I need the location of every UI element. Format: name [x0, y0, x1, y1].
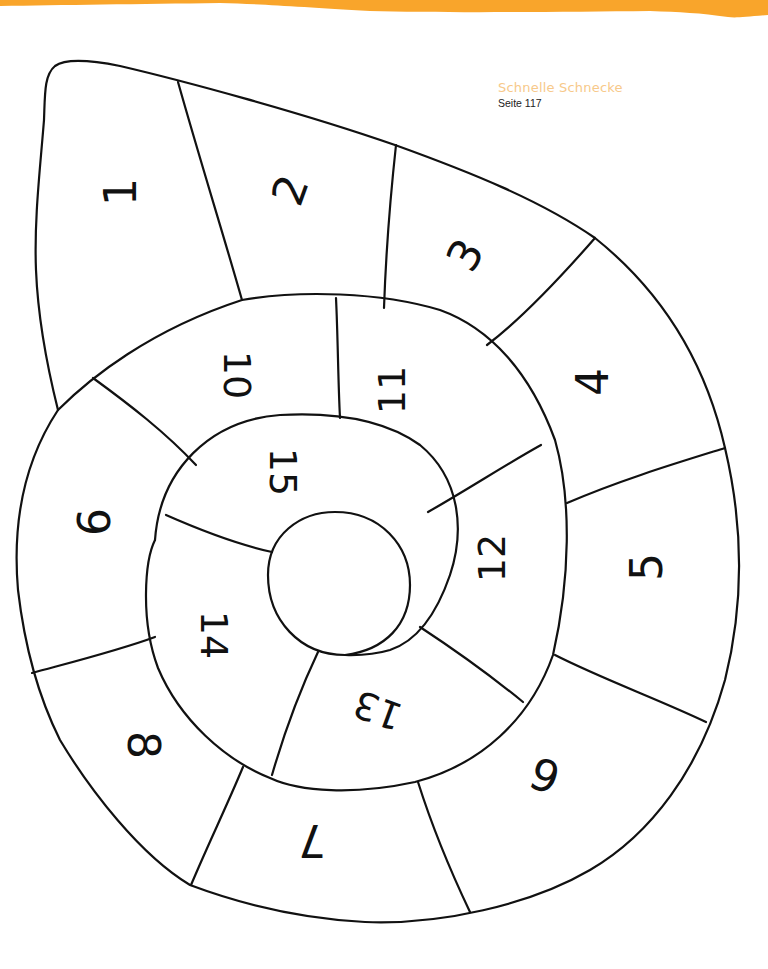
divider-12-13	[420, 627, 523, 702]
divider-5-6	[555, 655, 706, 722]
shell-center	[268, 512, 410, 655]
divider-14-15	[166, 515, 272, 552]
divider-8-9	[32, 637, 155, 673]
segment-3-number: 3	[436, 230, 494, 280]
segment-4-number: 4	[567, 368, 618, 396]
divider-1-2	[178, 82, 242, 300]
segment-7-number: 7	[298, 815, 326, 866]
segment-11-number: 11	[370, 366, 414, 414]
divider-9-10	[93, 378, 196, 465]
divider-11-12	[428, 445, 541, 512]
segment-9-number: 9	[67, 508, 118, 536]
worksheet-page: Schnelle Schnecke Seite 117 1 2 3	[0, 0, 768, 969]
segment-5-number: 5	[621, 553, 672, 581]
divider-2-3	[384, 145, 396, 308]
segment-13-number: 13	[348, 681, 408, 739]
segment-12-number: 12	[470, 534, 514, 582]
divider-3-4	[487, 238, 595, 345]
segment-6-number: 6	[523, 746, 567, 804]
divider-7-8	[191, 767, 243, 885]
segment-2-number: 2	[261, 168, 319, 212]
segment-15-number: 15	[261, 448, 305, 496]
divider-13-14	[272, 652, 318, 775]
segment-14-number: 14	[192, 611, 236, 659]
divider-4-5	[567, 448, 725, 503]
snail-spiral-game-board: 1 2 3 4 5 6 7 8 9 10 11 12 13 14 15	[0, 0, 768, 969]
divider-10-11	[336, 298, 340, 418]
segment-8-number: 8	[118, 731, 169, 759]
segment-1-number: 1	[95, 178, 146, 206]
divider-6-7	[418, 782, 470, 912]
segment-10-number: 10	[215, 351, 259, 399]
